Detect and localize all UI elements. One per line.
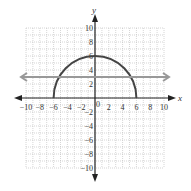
x-tick-label: −6 — [49, 103, 58, 112]
x-tick-label: 6 — [134, 103, 138, 112]
y-axis-arrow-up-icon — [92, 14, 98, 22]
coordinate-plane: xy−10−8−6−4−20246810−10−8−6−4−2246810 — [0, 0, 191, 191]
y-tick-label: 4 — [89, 66, 93, 75]
y-tick-label: 10 — [85, 24, 93, 33]
y-tick-label: 2 — [89, 80, 93, 89]
x-tick-label: 4 — [121, 103, 125, 112]
x-tick-label: −4 — [63, 103, 72, 112]
y-tick-label: −2 — [84, 108, 93, 117]
x-tick-label: −8 — [36, 103, 45, 112]
y-axis-label: y — [91, 5, 96, 15]
y-tick-label: −8 — [84, 150, 93, 159]
x-tick-label: −10 — [20, 103, 33, 112]
x-tick-label: 2 — [107, 103, 111, 112]
y-tick-label: −6 — [84, 136, 93, 145]
y-tick-label: −10 — [80, 164, 93, 173]
y-tick-label: −4 — [84, 122, 93, 131]
y-tick-label: 8 — [89, 38, 93, 47]
x-axis-arrow-right-icon — [168, 95, 176, 101]
x-tick-label: 10 — [160, 103, 168, 112]
x-tick-label: 0 — [96, 100, 100, 109]
x-axis-label: x — [177, 93, 182, 103]
x-tick-label: 8 — [148, 103, 152, 112]
x-axis-arrow-left-icon — [14, 95, 22, 101]
y-axis-arrow-down-icon — [92, 174, 98, 182]
